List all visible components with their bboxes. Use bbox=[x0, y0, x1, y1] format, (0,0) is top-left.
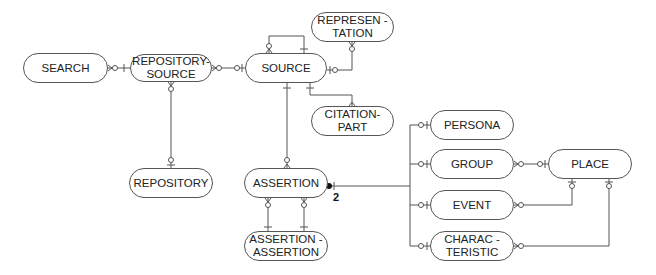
entity-event[interactable]: EVENT bbox=[430, 190, 514, 220]
entity-search[interactable]: SEARCH bbox=[23, 53, 108, 83]
entity-repository-source[interactable]: REPOSITORY- SOURCE bbox=[130, 54, 212, 82]
entity-source[interactable]: SOURCE bbox=[245, 53, 327, 83]
entity-citation-part[interactable]: CITATION- PART bbox=[311, 106, 394, 136]
entity-group[interactable]: GROUP bbox=[430, 149, 514, 179]
entity-persona[interactable]: PERSONA bbox=[430, 110, 514, 140]
entity-representation[interactable]: REPRESEN - TATION bbox=[311, 12, 394, 42]
entity-assertion[interactable]: ASSERTION bbox=[244, 168, 328, 198]
arc-cardinality-label: 2 bbox=[333, 191, 339, 203]
entity-assertion-assertion[interactable]: ASSERTION - ASSERTION bbox=[244, 231, 328, 261]
entity-place[interactable]: PLACE bbox=[548, 149, 632, 179]
entity-repository[interactable]: REPOSITORY bbox=[129, 168, 213, 198]
entity-characteristic[interactable]: CHARAC - TERISTIC bbox=[430, 231, 514, 261]
